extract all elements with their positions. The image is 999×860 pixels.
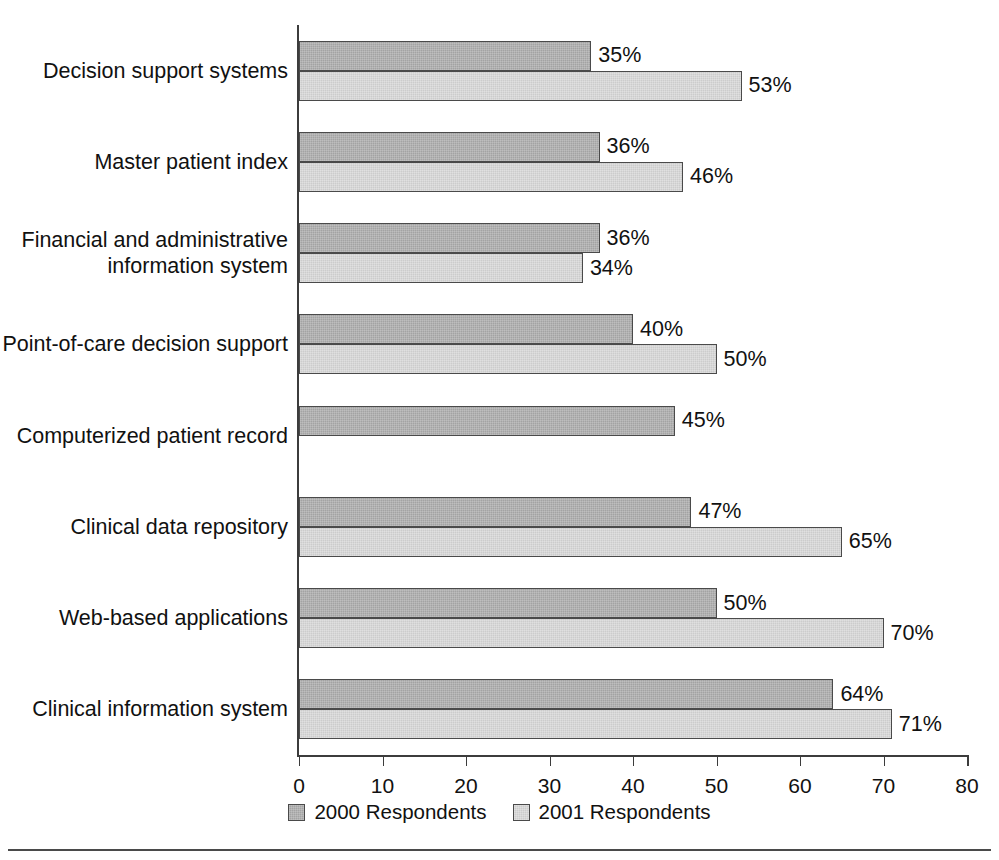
x-tick-label-80: 80	[955, 773, 978, 799]
plot-area: 01020304050607080 35%53%36%46%36%34%40%5…	[299, 25, 967, 755]
x-tick-label-60: 60	[788, 773, 811, 799]
x-tick-0	[299, 755, 300, 766]
bar-value-label: 53%	[742, 71, 792, 101]
bar-2000	[299, 497, 691, 527]
bar-value-label: 40%	[633, 314, 683, 344]
category-label: Master patient index	[0, 149, 288, 175]
x-tick-60	[800, 755, 801, 766]
x-tick-label-50: 50	[705, 773, 728, 799]
bar-chart: Decision support systemsMaster patient i…	[0, 0, 999, 860]
x-tick-10	[383, 755, 384, 766]
x-tick-label-10: 10	[371, 773, 394, 799]
bar-value-label: 36%	[600, 132, 650, 162]
x-tick-30	[550, 755, 551, 766]
x-tick-80	[967, 755, 969, 766]
bar-value-label: 50%	[717, 344, 767, 374]
bar-value-label: 35%	[591, 41, 641, 71]
bar-value-label: 71%	[892, 709, 942, 739]
x-tick-label-20: 20	[454, 773, 477, 799]
bar-value-label: 50%	[717, 588, 767, 618]
x-tick-50	[717, 755, 718, 766]
bar-value-label: 46%	[683, 162, 733, 192]
x-tick-20	[466, 755, 467, 766]
x-tick-label-0: 0	[293, 773, 305, 799]
x-tick-label-30: 30	[538, 773, 561, 799]
x-tick-label-40: 40	[621, 773, 644, 799]
category-label: Financial and administrative information…	[0, 227, 288, 279]
x-tick-70	[884, 755, 885, 766]
bar-value-label: 36%	[600, 223, 650, 253]
category-label: Clinical data repository	[0, 514, 288, 540]
category-label: Clinical information system	[0, 696, 288, 722]
bar-2001	[299, 253, 583, 283]
bar-2000	[299, 588, 717, 618]
bar-2001	[299, 618, 884, 648]
bar-2000	[299, 406, 675, 436]
category-axis-labels: Decision support systemsMaster patient i…	[0, 25, 288, 755]
category-label: Point-of-care decision support	[0, 331, 288, 357]
bar-value-label: 47%	[691, 497, 741, 527]
category-label: Web-based applications	[0, 605, 288, 631]
legend-label: 2000 Respondents	[314, 800, 486, 824]
bar-2000	[299, 41, 591, 71]
bar-2001	[299, 71, 742, 101]
chart-legend: 2000 Respondents2001 Respondents	[0, 800, 999, 824]
category-label: Decision support systems	[0, 58, 288, 84]
bar-value-label: 70%	[884, 618, 934, 648]
x-tick-label-70: 70	[872, 773, 895, 799]
bar-2000	[299, 223, 600, 253]
bar-2001	[299, 709, 892, 739]
bar-2001	[299, 527, 842, 557]
x-tick-40	[633, 755, 634, 766]
bar-value-label: 64%	[833, 679, 883, 709]
legend-swatch-icon	[513, 804, 530, 821]
legend-item[interactable]: 2001 Respondents	[513, 800, 711, 824]
bottom-divider	[8, 849, 991, 851]
legend-swatch-icon	[288, 804, 305, 821]
bar-2001	[299, 162, 683, 192]
bar-value-label: 45%	[675, 406, 725, 436]
bar-2000	[299, 132, 600, 162]
legend-label: 2001 Respondents	[539, 800, 711, 824]
bar-value-label: 65%	[842, 527, 892, 557]
category-label: Computerized patient record	[0, 423, 288, 449]
x-axis-line	[297, 755, 967, 757]
legend-item[interactable]: 2000 Respondents	[288, 800, 486, 824]
bar-value-label: 34%	[583, 253, 633, 283]
bar-2000	[299, 314, 633, 344]
bar-2000	[299, 679, 833, 709]
bar-2001	[299, 344, 717, 374]
